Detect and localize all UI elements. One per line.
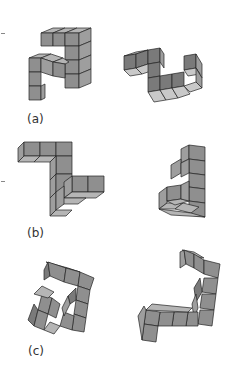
cube-shape-icon	[16, 140, 116, 225]
figure-c-right	[134, 248, 224, 343]
pair-label-c: (c)	[28, 344, 44, 358]
figure-a-left	[25, 18, 105, 108]
margin-mark	[1, 33, 5, 34]
figure-b-right	[155, 145, 215, 230]
margin-mark	[1, 181, 5, 182]
pair-label-b: (b)	[27, 226, 44, 240]
cube-shape-icon	[134, 248, 224, 343]
figure-c-left	[24, 260, 104, 345]
figure-a-right	[120, 42, 215, 114]
cube-shape-icon	[155, 145, 215, 230]
cube-shape-icon	[120, 42, 215, 114]
cube-shape-icon	[25, 18, 105, 108]
pair-label-a: (a)	[27, 112, 44, 126]
figure-b-left	[16, 140, 116, 225]
cube-shape-icon	[24, 260, 104, 345]
